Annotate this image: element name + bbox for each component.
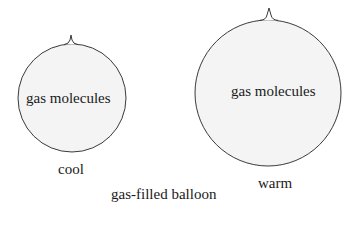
warm-label: warm xyxy=(258,176,292,191)
diagram-title: gas-filled balloon xyxy=(111,187,216,202)
balloon-knot-icon xyxy=(64,35,78,45)
warm-balloon-inner-label: gas molecules xyxy=(231,84,316,99)
cool-label: cool xyxy=(58,162,84,177)
cool-balloon-inner-label: gas molecules xyxy=(26,91,111,106)
balloon-knot-icon xyxy=(260,8,278,20)
